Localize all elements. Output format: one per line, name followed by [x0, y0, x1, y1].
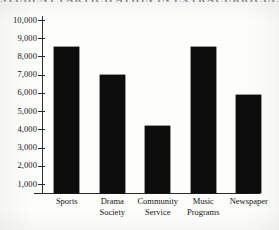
- y-axis-tick: [38, 148, 45, 149]
- y-axis-line: [42, 16, 43, 194]
- y-axis-tick-label: 4,000: [1, 125, 37, 134]
- y-axis-tick-label: 2,000: [1, 161, 37, 170]
- y-axis-tick-label: 9,000: [1, 34, 37, 43]
- y-axis-tick: [38, 111, 45, 112]
- x-axis-label-line: Newspaper: [223, 196, 275, 207]
- x-axis-category-labels: SportsDramaSocietyCommunityServiceMusicP…: [34, 196, 279, 230]
- y-axis-tick: [38, 184, 45, 185]
- y-axis-tick-label: 6,000: [1, 88, 37, 97]
- bar-community-service: [145, 126, 170, 193]
- y-axis-tick-labels: 10,0009,0008,0007,0006,0005,0004,0003,00…: [0, 0, 37, 230]
- bar-newspaper: [236, 95, 261, 193]
- y-axis-tick: [38, 129, 45, 130]
- y-axis-tick-label: 3,000: [1, 143, 37, 152]
- y-axis-tick: [38, 93, 45, 94]
- y-axis-tick: [38, 56, 45, 57]
- y-axis-tick-label: 8,000: [1, 52, 37, 61]
- x-axis-label-sports: Sports: [41, 196, 93, 207]
- y-axis-tick: [38, 38, 45, 39]
- y-axis-tick: [38, 20, 45, 21]
- x-axis-label-line: Music: [178, 196, 230, 207]
- bar-music-programs: [191, 47, 216, 193]
- bar-chart-figure: STUDENT PARTICIPATION IN EXTRACURRICULAR…: [0, 0, 279, 230]
- x-axis-label-newspaper: Newspaper: [223, 196, 275, 207]
- x-axis-line: [34, 193, 260, 194]
- x-axis-label-drama-society: DramaSociety: [87, 196, 139, 217]
- y-axis-tick-label: 5,000: [1, 107, 37, 116]
- x-axis-label-line: Sports: [41, 196, 93, 207]
- y-axis-tick: [38, 75, 45, 76]
- x-axis-label-line: Community: [132, 196, 184, 207]
- x-axis-label-music-programs: MusicPrograms: [178, 196, 230, 217]
- x-axis-label-line: Service: [132, 207, 184, 218]
- y-axis-tick-label: 7,000: [1, 70, 37, 79]
- y-axis-tick-label: 1,000: [1, 180, 37, 189]
- x-axis-label-line: Programs: [178, 207, 230, 218]
- x-axis-label-community-service: CommunityService: [132, 196, 184, 217]
- bar-drama-society: [100, 75, 125, 193]
- chart-title: STUDENT PARTICIPATION IN EXTRACURRICULAR…: [0, 0, 279, 2]
- x-axis-label-line: Drama: [87, 196, 139, 207]
- x-axis-label-line: Society: [87, 207, 139, 218]
- y-axis-tick-label: 10,000: [1, 16, 37, 25]
- y-axis-tick: [38, 166, 45, 167]
- bar-sports: [54, 47, 79, 193]
